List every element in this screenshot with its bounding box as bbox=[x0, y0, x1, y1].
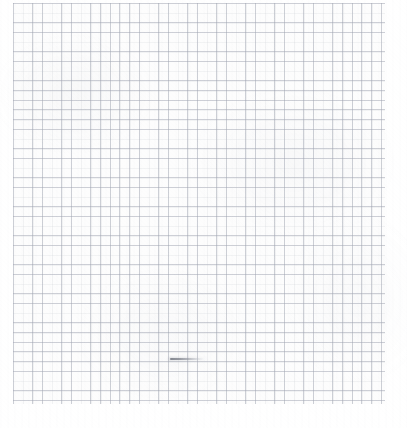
margin-right bbox=[385, 0, 407, 428]
margin-bottom bbox=[0, 404, 407, 428]
graph-paper-scan bbox=[0, 0, 407, 428]
margin-top bbox=[0, 0, 407, 3]
margin-left bbox=[0, 0, 13, 428]
grid-lines-bleed bbox=[13, 3, 385, 404]
pencil-stroke bbox=[170, 358, 203, 360]
graph-paper-grid bbox=[13, 3, 385, 404]
